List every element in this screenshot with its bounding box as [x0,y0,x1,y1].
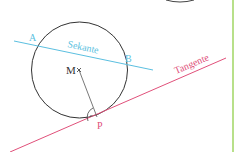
circle-diagram: M A B Sekante Tangente P [0,0,234,152]
label-tangent: Tangente [172,51,210,76]
right-border [232,0,234,152]
center-marker-icon [77,68,81,72]
right-angle-dot [90,115,92,117]
label-P: P [97,120,103,131]
label-M: M [66,64,76,76]
tangent-line [10,58,226,152]
label-B: B [125,53,132,64]
right-angle-mark [87,108,93,121]
radius-line [79,70,97,117]
partial-circle-arc [166,0,194,2]
label-A: A [29,32,37,43]
